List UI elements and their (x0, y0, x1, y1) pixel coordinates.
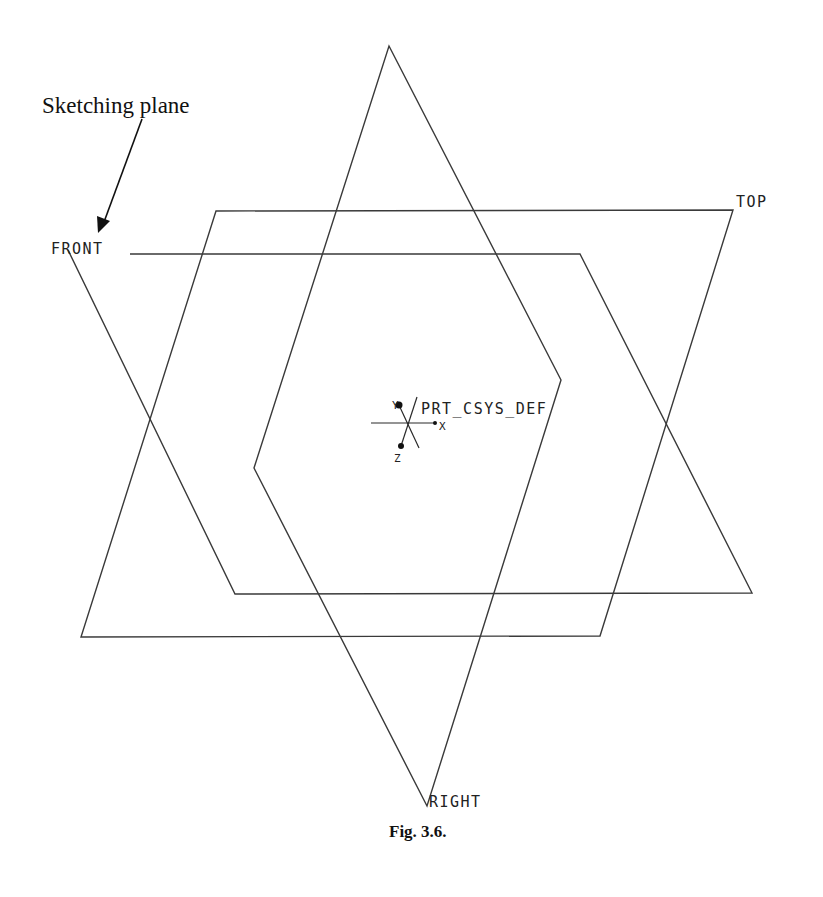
top-plane-label: TOP (736, 193, 768, 211)
right-plane-label: RIGHT (429, 793, 482, 811)
diagram-canvas: Sketching plane FRONT TOP RIGHT Y X Z PR… (0, 0, 823, 897)
csys-label: PRT_CSYS_DEF (421, 400, 547, 418)
csys-x-axis-label: X (439, 420, 446, 433)
csys-z-axis-label: Z (394, 452, 401, 465)
figure-caption: Fig. 3.6. (389, 822, 447, 841)
annotation-arrow-icon (97, 119, 142, 233)
csys-y-axis-label: Y (392, 399, 399, 412)
front-plane-label: FRONT (51, 240, 104, 258)
sketching-plane-annotation: Sketching plane (42, 93, 190, 118)
front-datum-plane[interactable] (68, 250, 752, 594)
